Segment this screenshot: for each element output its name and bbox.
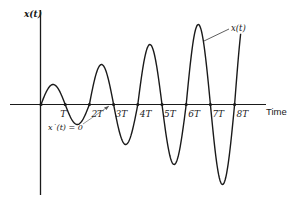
derivative-zero-annotation: x˙(t) = 0: [48, 123, 83, 132]
zero-crossing-dot: [39, 103, 42, 106]
x-axis-label: Time: [266, 106, 287, 117]
tick-label: 7T: [212, 109, 225, 119]
zero-crossing-dot: [136, 103, 139, 106]
zero-crossing-dot: [209, 103, 212, 106]
zero-crossing-dot: [185, 103, 188, 106]
zero-crossing-dot: [88, 103, 91, 106]
tick-label: 6T: [188, 109, 201, 119]
time-tick-labels: T2T3T4T5T6T7T8T: [60, 109, 249, 119]
tick-label: 8T: [237, 109, 250, 119]
y-axis-label: x(t): [23, 9, 42, 19]
zero-crossing-dot: [160, 103, 163, 106]
curve-label: x(t): [231, 23, 246, 33]
arrowhead-icon: [104, 106, 109, 110]
zero-crossing-dot: [64, 103, 67, 106]
tick-label: T: [60, 109, 67, 119]
tick-label: 5T: [164, 109, 177, 119]
zero-crossing-dot: [233, 103, 236, 106]
oscillation-diagram: T2T3T4T5T6T7T8T x(t) Time x(t) x˙(t) = 0: [0, 0, 297, 200]
tick-label: 4T: [139, 109, 153, 119]
zero-crossing-dot: [112, 103, 115, 106]
curve-label-leader: [204, 29, 229, 41]
tick-label: 3T: [116, 109, 129, 119]
